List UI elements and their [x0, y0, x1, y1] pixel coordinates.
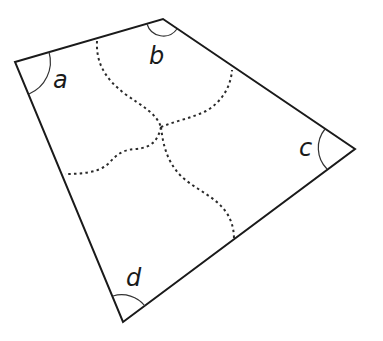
cut-line-from-bottom-edge [161, 127, 234, 240]
angle-arc-c [318, 129, 327, 169]
quadrilateral-diagram: a b c d [0, 0, 383, 341]
angle-label-c: c [299, 134, 312, 162]
angle-label-d: d [126, 264, 142, 292]
cut-line-from-left-edge [65, 127, 161, 174]
cut-line-from-right-edge [161, 70, 232, 127]
angle-arc-a [29, 52, 50, 94]
quadrilateral-outline [15, 19, 355, 322]
angle-arc-d [113, 295, 145, 306]
angle-label-a: a [53, 66, 68, 94]
angle-label-b: b [149, 42, 164, 70]
